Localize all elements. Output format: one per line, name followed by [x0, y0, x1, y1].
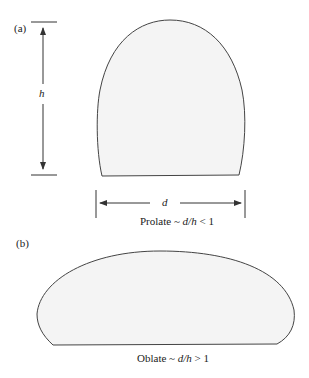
width-dimension [96, 190, 245, 218]
height-symbol: h [39, 87, 45, 99]
oblate-caption-suffix: > 1 [192, 352, 209, 364]
width-symbol: d [162, 196, 168, 208]
prolate-shape [97, 20, 245, 176]
oblate-caption-prefix: Oblate ~ [137, 352, 178, 364]
prolate-caption-suffix: < 1 [197, 215, 214, 227]
panel-a-label: (a) [14, 22, 26, 34]
oblate-caption-ratio: d/h [178, 352, 192, 364]
oblate-caption: Oblate ~ d/h > 1 [137, 352, 209, 364]
panel-b-label: (b) [16, 237, 29, 249]
prolate-caption-ratio: d/h [183, 215, 197, 227]
prolate-caption: Prolate ~ d/h < 1 [140, 215, 214, 227]
prolate-caption-prefix: Prolate ~ [140, 215, 183, 227]
diagram-canvas [0, 0, 309, 378]
oblate-shape [37, 251, 294, 345]
